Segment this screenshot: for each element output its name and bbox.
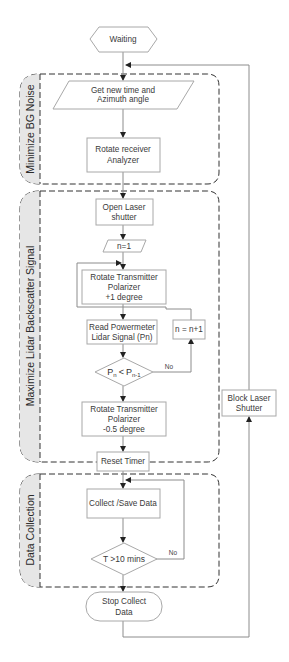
svg-text:Collect /Save Data: Collect /Save Data xyxy=(89,499,157,508)
svg-text:+1 degree: +1 degree xyxy=(105,293,143,302)
svg-text:Waiting: Waiting xyxy=(110,35,137,44)
svg-text:Rotate receiver: Rotate receiver xyxy=(95,145,151,154)
svg-text:Open Laser: Open Laser xyxy=(103,203,146,212)
svg-text:Read Powermeter: Read Powermeter xyxy=(89,323,155,332)
edge-label-compare-no: No xyxy=(165,363,174,370)
node-rotate-tx-plus: Rotate Transmitter Polarizer +1 degree xyxy=(82,270,166,304)
group-label-lidar: Maximize Lidar Backscatter Signal xyxy=(24,246,36,406)
group-label-bg-noise: Minimize BG Noise xyxy=(24,84,36,173)
node-collect: Collect /Save Data xyxy=(87,489,160,518)
node-compare-diamond: Pn<Pn-1 xyxy=(95,358,153,386)
svg-text:Reset Timer: Reset Timer xyxy=(101,457,145,466)
node-block-laser: Block Laser Shutter xyxy=(222,390,276,416)
svg-text:Azimuth angle: Azimuth angle xyxy=(97,95,149,104)
node-get-time: Get new time and Azimuth angle xyxy=(53,81,194,109)
svg-text:Polarizer: Polarizer xyxy=(108,283,141,292)
node-rotate-tx-minus: Rotate Transmitter Polarizer -0.5 degree xyxy=(82,402,166,436)
node-n-init: n=1 xyxy=(103,240,146,252)
edge-label-timer-no: No xyxy=(169,549,178,556)
svg-text:Lidar Signal (Pn): Lidar Signal (Pn) xyxy=(92,333,153,342)
svg-text:shutter: shutter xyxy=(111,213,136,222)
svg-text:n = n+1: n = n+1 xyxy=(175,325,203,334)
svg-text:Data: Data xyxy=(115,608,133,617)
node-reset-timer: Reset Timer xyxy=(97,452,149,471)
node-timer-check-diamond: T >10 mins xyxy=(91,543,157,575)
flowchart-canvas: Minimize BG Noise Maximize Lidar Backsca… xyxy=(0,0,289,662)
node-n-increment: n = n+1 xyxy=(173,320,205,339)
svg-text:-0.5 degree: -0.5 degree xyxy=(103,425,145,434)
svg-text:n=1: n=1 xyxy=(117,242,131,251)
node-read-power: Read Powermeter Lidar Signal (Pn) xyxy=(87,320,157,344)
svg-text:Rotate Transmitter: Rotate Transmitter xyxy=(90,405,158,414)
svg-text:Rotate Transmitter: Rotate Transmitter xyxy=(90,273,158,282)
node-rotate-receiver: Rotate receiver Analyzer xyxy=(87,138,160,172)
svg-text:Analyzer: Analyzer xyxy=(107,156,139,165)
svg-text:Get new time and: Get new time and xyxy=(91,86,156,95)
svg-text:T >10 mins: T >10 mins xyxy=(103,554,145,564)
svg-text:Block Laser: Block Laser xyxy=(228,394,271,403)
group-label-data-collection: Data Collection xyxy=(24,494,36,565)
node-waiting: Waiting xyxy=(90,27,157,52)
node-open-laser: Open Laser shutter xyxy=(96,199,153,225)
svg-text:Stop Collect: Stop Collect xyxy=(102,597,147,606)
svg-text:Shutter: Shutter xyxy=(236,404,263,413)
svg-text:Polarizer: Polarizer xyxy=(108,415,141,424)
node-stop: Stop Collect Data xyxy=(86,592,162,621)
